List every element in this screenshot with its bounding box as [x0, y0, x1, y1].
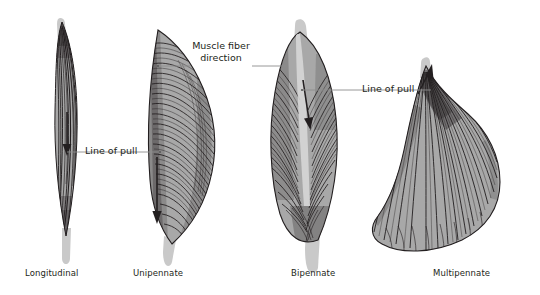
- annotation-muscle-fiber-direction-line1: Muscle fiber: [190, 40, 252, 52]
- leader-dot-unipennate-fiber: [157, 65, 159, 67]
- leader-dot-bipennate-pull: [301, 89, 303, 91]
- bipennate-fibers: [264, 34, 342, 244]
- muscle-fiber-arrangement-figure: Muscle fiber direction Line of pull Line…: [0, 0, 540, 295]
- figure-canvas: [0, 0, 540, 295]
- caption-longitudinal: Longitudinal: [25, 268, 79, 278]
- muscle-longitudinal: [50, 18, 82, 264]
- leader-lines: [68, 66, 431, 152]
- annotation-muscle-fiber-direction-line2: direction: [190, 52, 252, 64]
- caption-unipennate: Unipennate: [133, 268, 183, 278]
- muscle-bipennate: [264, 19, 342, 272]
- leader-dot-longitudinal: [67, 151, 69, 153]
- annotation-line-of-pull-right: Line of pull: [362, 83, 414, 95]
- leader-dot-unipennate-pull: [159, 151, 161, 153]
- caption-multipennate: Multipennate: [433, 268, 490, 278]
- annotation-line-of-pull-left: Line of pull: [85, 145, 137, 157]
- caption-bipennate: Bipennate: [291, 268, 335, 278]
- annotation-muscle-fiber-direction: Muscle fiber direction: [190, 40, 252, 64]
